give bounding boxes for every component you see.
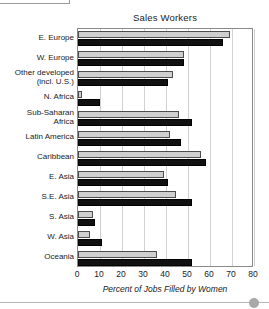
bar-light [78,151,201,158]
category-label: W. Europe [0,53,74,63]
bar-row [78,111,252,126]
bar-light [78,71,173,78]
bar-row [78,151,252,166]
bar-row [78,171,252,186]
x-tick-label: 10 [94,269,103,279]
bar-dark [78,199,192,206]
category-label-line: Africa [0,117,74,127]
bar-dark [78,239,102,246]
chart-figure: Sales Workers E. EuropeW. EuropeOther de… [0,0,269,309]
gridline [254,29,255,266]
bar-light [78,251,157,258]
category-label: E. Asia [0,172,74,182]
category-label-line: E. Europe [0,33,74,43]
category-label: Oceania [0,252,74,262]
bar-light [78,91,82,98]
bar-row [78,211,252,226]
category-axis-labels: E. EuropeW. EuropeOther developed(incl. … [0,28,74,267]
chart-title: Sales Workers [77,12,253,23]
plot-area [77,28,253,267]
page-top-rule [0,0,70,4]
category-label-line: Caribbean [0,152,74,162]
bar-dark [78,179,168,186]
x-axis-ticks: 01020304050607080 [77,269,253,283]
page-corner-dot [249,298,259,308]
category-label: Caribbean [0,152,74,162]
category-label: Latin America [0,132,74,142]
category-label-line: W. Asia [0,232,74,242]
bar-light [78,171,164,178]
x-tick-label: 40 [160,269,169,279]
category-label: Other developed(incl. U.S.) [0,68,74,87]
x-tick-label: 30 [138,269,147,279]
category-label-line: Latin America [0,132,74,142]
bar-dark [78,139,181,146]
bar-row [78,31,252,46]
x-tick-label: 0 [75,269,80,279]
bar-row [78,251,252,266]
bar-light [78,231,90,238]
bar-row [78,71,252,86]
page-bottom-rule [0,302,269,303]
category-label: W. Asia [0,232,74,242]
bar-row [78,191,252,206]
bar-dark [78,39,223,46]
bar-row [78,231,252,246]
bar-light [78,111,179,118]
x-tick-label: 80 [248,269,257,279]
category-label-line: Oceania [0,252,74,262]
bar-light [78,191,176,198]
category-label: S.E. Asia [0,192,74,202]
category-label-line: S.E. Asia [0,192,74,202]
category-label-line: Sub-Saharan [0,108,74,118]
x-tick-label: 50 [182,269,191,279]
bar-dark [78,99,100,106]
bar-rows [78,29,252,266]
bar-dark [78,159,206,166]
x-tick-label: 60 [204,269,213,279]
x-tick-label: 70 [226,269,235,279]
bar-dark [78,219,95,226]
bar-dark [78,59,184,66]
bar-light [78,51,184,58]
bar-light [78,211,93,218]
bar-dark [78,79,168,86]
category-label-line: N. Africa [0,92,74,102]
category-label-line: (incl. U.S.) [0,77,74,87]
category-label-line: S. Asia [0,212,74,222]
bar-row [78,131,252,146]
category-label: N. Africa [0,92,74,102]
category-label: Sub-SaharanAfrica [0,108,74,127]
bar-dark [78,259,192,266]
x-axis-label: Percent of Jobs Filled by Women [77,284,253,294]
category-label: E. Europe [0,33,74,43]
category-label-line: E. Asia [0,172,74,182]
category-label-line: W. Europe [0,53,74,63]
bar-row [78,51,252,66]
bar-dark [78,119,192,126]
bar-row [78,91,252,106]
bar-light [78,31,230,38]
category-label-line: Other developed [0,68,74,78]
category-label: S. Asia [0,212,74,222]
bar-light [78,131,170,138]
x-tick-label: 20 [116,269,125,279]
